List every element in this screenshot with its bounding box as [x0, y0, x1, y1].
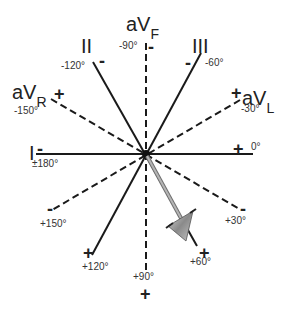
lead-avl-sub: L: [266, 100, 274, 116]
angle-plus-150: +150°: [40, 219, 67, 229]
lead-ii-negative-sign: -: [99, 52, 105, 70]
lead-i-positive-sign: +: [233, 140, 244, 158]
angle-minus-90: -90°: [119, 41, 137, 51]
lead-iii-positive-sign: +: [83, 244, 94, 262]
lead-iii-label: III: [192, 36, 209, 56]
angle-minus-120: -120°: [61, 61, 85, 71]
angle-plus-90: +90°: [133, 272, 154, 282]
angle-0: 0°: [251, 142, 261, 152]
lead-avl-negative-sign: -: [47, 200, 53, 218]
angle-plus-30: +30°: [225, 216, 246, 226]
lead-avr-main: aV: [12, 81, 36, 103]
angle-minus-150: -150°: [14, 106, 38, 116]
lead-avr-label: aVR: [12, 82, 47, 102]
lead-avl-positive-sign: +: [231, 84, 242, 102]
angle-minus-60: -60°: [205, 58, 223, 68]
lead-avf-label: aVF: [126, 14, 159, 34]
lead-avf-negative-sign: -: [148, 38, 154, 56]
lead-ii-label: II: [81, 36, 92, 56]
angle-plus-120: +120°: [82, 262, 109, 272]
lead-i-negative-sign: -: [37, 140, 43, 158]
lead-avr-positive-sign: +: [54, 85, 65, 103]
angle-180: ±180°: [32, 159, 58, 169]
lead-avf-main: aV: [126, 13, 150, 35]
angle-minus-30: -30°: [241, 104, 259, 114]
axis-vector-arrow-icon: [147, 156, 196, 241]
lead-avf-positive-sign: +: [140, 285, 151, 303]
lead-iii-negative-sign: -: [185, 54, 191, 72]
angle-plus-60: +60°: [190, 257, 211, 267]
